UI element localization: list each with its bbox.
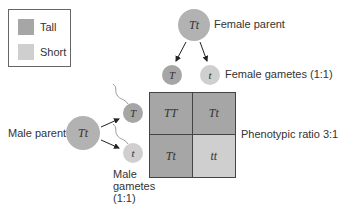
- male-gamete-T-label: T: [130, 107, 136, 119]
- female-gametes-label: Female gametes (1:1): [225, 68, 333, 80]
- female-parent-genotype: Tt: [189, 18, 199, 33]
- female-gamete-T: T: [162, 65, 182, 85]
- punnett-cell-tt: tt: [193, 135, 236, 177]
- female-parent-label: Female parent: [214, 18, 285, 30]
- arrow-male-to-T: [101, 119, 119, 127]
- female-gamete-t: t: [200, 65, 220, 85]
- punnett-cell-Tt-top: Tt: [193, 93, 236, 135]
- arrow-female-to-t: [200, 42, 207, 61]
- male-gametes-label-line2: gametes: [113, 180, 155, 192]
- male-gamete-T: T: [123, 103, 143, 123]
- punnett-cell-tt-label: tt: [210, 149, 217, 164]
- male-gamete-t: t: [123, 143, 143, 163]
- phenotypic-ratio-label: Phenotypic ratio 3:1: [241, 128, 338, 140]
- female-gamete-t-label: t: [208, 69, 211, 81]
- male-parent-genotype: Tt: [78, 126, 88, 141]
- arrow-female-to-T: [176, 42, 186, 61]
- male-gamete-t-label: t: [131, 147, 134, 159]
- punnett-cell-TT-label: TT: [164, 106, 177, 121]
- sperm-tail-t: [113, 124, 128, 144]
- male-parent-label: Male parent: [8, 127, 66, 139]
- male-gametes-label-line3: (1:1): [113, 192, 136, 204]
- punnett-cell-TT: TT: [150, 93, 193, 135]
- punnett-cell-Tt-bottom: Tt: [150, 135, 193, 177]
- female-parent-circle: Tt: [178, 9, 210, 41]
- sperm-tail-T: [113, 84, 128, 104]
- arrow-male-to-t: [101, 140, 119, 148]
- punnett-cell-Tt-top-label: Tt: [209, 106, 219, 121]
- punnett-square: TT Tt Tt tt: [149, 92, 236, 178]
- punnett-cell-Tt-bottom-label: Tt: [166, 149, 176, 164]
- male-parent-circle: Tt: [66, 116, 100, 150]
- male-gametes-label-line1: Male: [113, 168, 137, 180]
- female-gamete-T-label: T: [169, 69, 175, 81]
